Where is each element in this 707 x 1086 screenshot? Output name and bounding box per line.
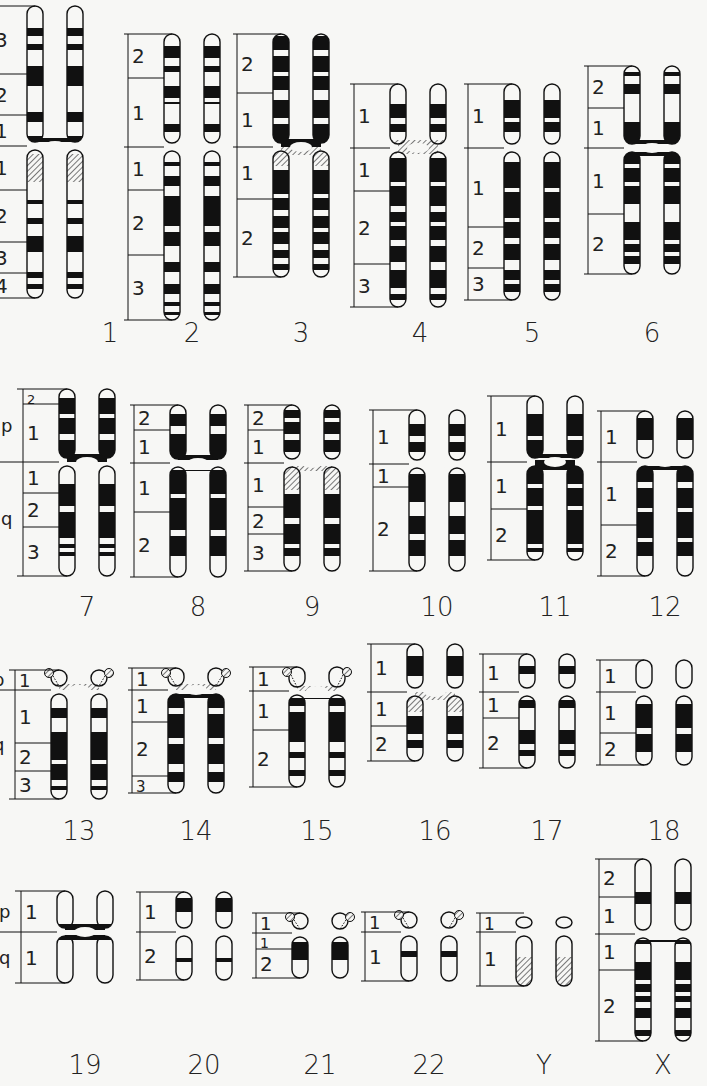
band bbox=[51, 786, 107, 790]
band bbox=[635, 996, 691, 1002]
band bbox=[273, 76, 329, 90]
region-number: 1 bbox=[472, 104, 485, 128]
band bbox=[390, 186, 446, 206]
band bbox=[504, 162, 560, 188]
region-number: 1 bbox=[369, 945, 382, 969]
band bbox=[170, 434, 226, 460]
region-number: 3 bbox=[136, 778, 146, 796]
chromosome-label: 9 bbox=[304, 592, 321, 622]
region-number: 3 bbox=[27, 540, 40, 564]
band bbox=[27, 154, 83, 182]
region-number: 3 bbox=[0, 246, 8, 270]
chromosome-label: 8 bbox=[190, 592, 207, 622]
chromosome-label: 6 bbox=[644, 318, 661, 348]
region-number: 3 bbox=[472, 272, 485, 296]
chromosome-7: 21123pq bbox=[0, 389, 115, 576]
chromosome-5: 1123 bbox=[464, 84, 560, 300]
band bbox=[635, 984, 691, 992]
band bbox=[624, 122, 680, 144]
region-number: 1 bbox=[605, 482, 618, 506]
band bbox=[635, 940, 691, 944]
region-number: 2 bbox=[605, 539, 618, 563]
chromosome-label: 12 bbox=[648, 592, 681, 622]
chromosome-21: 112 bbox=[252, 913, 355, 979]
region-number: 2 bbox=[375, 732, 388, 756]
band bbox=[59, 552, 115, 556]
chromosome-label: 19 bbox=[68, 1050, 101, 1080]
arm-label-q: q bbox=[0, 734, 4, 755]
region-number: 2 bbox=[377, 517, 390, 541]
band bbox=[504, 192, 560, 218]
band bbox=[519, 666, 575, 674]
band bbox=[27, 44, 83, 50]
region-number: 2 bbox=[487, 731, 500, 755]
band bbox=[164, 46, 220, 58]
region-number: 1 bbox=[487, 661, 500, 685]
region-number: 2 bbox=[592, 75, 605, 99]
band bbox=[27, 218, 83, 224]
region-number: 2 bbox=[144, 944, 157, 968]
region-number: 1 bbox=[358, 158, 371, 182]
band bbox=[284, 494, 340, 518]
satellite-icon bbox=[283, 668, 292, 677]
chromosome-label: 16 bbox=[418, 816, 451, 846]
band bbox=[273, 56, 329, 72]
region-number: 3 bbox=[19, 773, 32, 797]
chromosome-16: 112 bbox=[367, 644, 463, 761]
band bbox=[170, 498, 226, 530]
band bbox=[164, 102, 220, 104]
region-number: 1 bbox=[136, 694, 149, 718]
region-number: 2 bbox=[27, 498, 40, 522]
band bbox=[164, 176, 220, 186]
region-number: 2 bbox=[603, 866, 616, 890]
band bbox=[636, 734, 692, 752]
band bbox=[504, 244, 560, 260]
band bbox=[504, 222, 560, 238]
chromosome-3: 2112 bbox=[233, 34, 329, 277]
band bbox=[504, 100, 560, 118]
band bbox=[407, 716, 463, 734]
region-number: 1 bbox=[27, 421, 40, 445]
band bbox=[527, 466, 583, 484]
band bbox=[164, 124, 220, 132]
band bbox=[168, 772, 224, 782]
chromosome-19: 11pq bbox=[0, 891, 113, 983]
band bbox=[27, 112, 83, 122]
band bbox=[292, 942, 348, 960]
band bbox=[168, 744, 224, 764]
region-number: 1 bbox=[604, 664, 617, 688]
chromosome-label: 21 bbox=[303, 1050, 336, 1080]
band bbox=[59, 418, 115, 434]
chromosome-label: 13 bbox=[62, 816, 95, 846]
region-number: 3 bbox=[132, 276, 145, 300]
satellite-icon bbox=[286, 913, 295, 922]
region-number: 2 bbox=[252, 509, 265, 533]
region-number: 2 bbox=[260, 952, 273, 976]
band bbox=[273, 250, 329, 258]
chromosome-label: 11 bbox=[538, 592, 571, 622]
region-number: 1 bbox=[604, 701, 617, 725]
band bbox=[407, 740, 463, 748]
band bbox=[168, 694, 224, 708]
region-number: 1 bbox=[603, 904, 616, 928]
band bbox=[273, 36, 329, 50]
band bbox=[527, 488, 583, 506]
band bbox=[624, 72, 680, 76]
chromosome-X: 2112 bbox=[595, 859, 691, 1041]
band bbox=[284, 422, 340, 434]
band bbox=[390, 226, 446, 240]
band bbox=[273, 170, 329, 194]
region-number: 2 bbox=[132, 211, 145, 235]
region-number: 2 bbox=[0, 83, 8, 107]
chromosome-6: 2112 bbox=[584, 66, 680, 274]
chromosome-label: Y bbox=[536, 1050, 552, 1080]
band bbox=[164, 66, 220, 72]
chromosome-8: 2112 bbox=[130, 405, 226, 577]
region-number: 2 bbox=[257, 747, 270, 771]
region-number: 2 bbox=[0, 204, 8, 228]
band bbox=[637, 466, 693, 482]
region-number: 1 bbox=[377, 464, 390, 488]
region-number: 1 bbox=[605, 425, 618, 449]
band bbox=[164, 262, 220, 272]
region-number: 1 bbox=[358, 104, 371, 128]
